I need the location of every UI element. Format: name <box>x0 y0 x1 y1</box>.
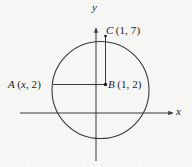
point-label-b: B (1, 2) <box>108 78 142 90</box>
point-label-a: A (x, 2) <box>8 78 41 90</box>
point-b-marker <box>104 83 107 86</box>
point-label-c: C (1, 7) <box>106 24 140 36</box>
y-axis-label: y <box>92 1 97 13</box>
x-axis-label: x <box>176 105 181 117</box>
geometry-figure: C (1, 7) B (1, 2) A (x, 2) y x <box>0 0 192 167</box>
circle-shape <box>52 42 149 139</box>
